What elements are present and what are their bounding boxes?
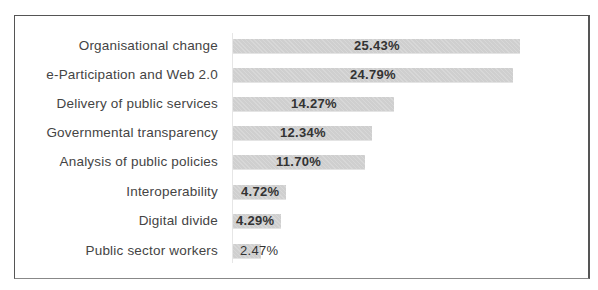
bar-row: Public sector workers2.47% xyxy=(0,241,598,261)
value-label: 4.29% xyxy=(236,211,274,231)
value-label: 2.47% xyxy=(240,241,278,261)
bar-row: Interoperability4.72% xyxy=(0,182,598,202)
value-label: 4.72% xyxy=(241,182,279,202)
bar-row: Organisational change25.43% xyxy=(0,36,598,56)
category-label: Delivery of public services xyxy=(57,94,218,114)
category-label: Organisational change xyxy=(79,36,218,56)
category-label: Interoperability xyxy=(126,182,218,202)
bar-row: Delivery of public services14.27% xyxy=(0,94,598,114)
category-label: e-Participation and Web 2.0 xyxy=(46,65,218,85)
value-label: 24.79% xyxy=(350,65,396,85)
value-label: 14.27% xyxy=(291,94,337,114)
category-label: Analysis of public policies xyxy=(60,152,218,172)
value-label: 12.34% xyxy=(280,123,326,143)
value-label: 11.70% xyxy=(276,152,321,172)
bar-row: Digital divide4.29% xyxy=(0,211,598,231)
bar-row: Governmental transparency12.34% xyxy=(0,123,598,143)
bar-row: e-Participation and Web 2.024.79% xyxy=(0,65,598,85)
category-label: Governmental transparency xyxy=(46,123,218,143)
value-label: 25.43% xyxy=(354,36,400,56)
bar-row: Analysis of public policies11.70% xyxy=(0,152,598,172)
category-label: Public sector workers xyxy=(86,241,219,261)
category-label: Digital divide xyxy=(139,211,218,231)
